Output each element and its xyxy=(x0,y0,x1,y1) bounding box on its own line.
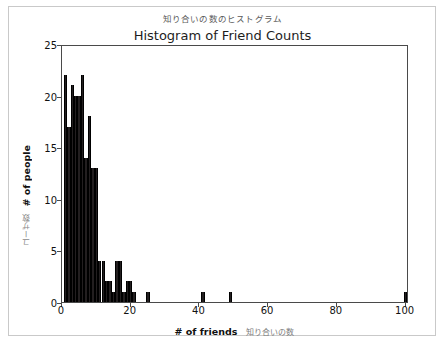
histogram-bar xyxy=(229,292,232,302)
histogram-bar xyxy=(146,292,149,302)
y-tick-label: 10 xyxy=(35,194,57,205)
y-axis-tick-labels: 0510152025 xyxy=(35,45,57,303)
x-tick-label: 60 xyxy=(261,305,274,316)
histogram-bar xyxy=(201,292,204,302)
chart-title: Histogram of Friend Counts xyxy=(0,28,445,43)
histogram-bar xyxy=(404,292,407,302)
x-tick-label: 40 xyxy=(192,305,205,316)
y-tick-label: 25 xyxy=(35,40,57,51)
y-tick-label: 5 xyxy=(35,246,57,257)
x-axis-label-english: # of friends xyxy=(175,326,238,337)
x-tick-label: 0 xyxy=(58,305,64,316)
x-axis-tick-labels: 020406080100 xyxy=(61,305,408,319)
plot-area xyxy=(61,45,408,303)
x-tick-label: 100 xyxy=(395,305,414,316)
x-axis-label-group: # of friends知り合いの数 xyxy=(61,320,408,339)
y-axis-label-english: # of people xyxy=(21,145,32,207)
histogram-bars xyxy=(62,46,407,302)
y-tick-label: 0 xyxy=(35,298,57,309)
x-axis-label-japanese: 知り合いの数 xyxy=(246,328,294,337)
y-tick-label: 20 xyxy=(35,91,57,102)
y-axis-label-japanese: ユーザ数 xyxy=(21,214,32,246)
x-tick-label: 80 xyxy=(329,305,342,316)
japanese-subtitle: 知り合いの数のヒストグラム xyxy=(0,12,445,24)
x-tick-label: 20 xyxy=(123,305,136,316)
figure-page: 知り合いの数のヒストグラム Histogram of Friend Counts… xyxy=(0,0,445,351)
footer-note xyxy=(10,342,210,349)
histogram-bar xyxy=(132,292,135,302)
y-tick-label: 15 xyxy=(35,143,57,154)
